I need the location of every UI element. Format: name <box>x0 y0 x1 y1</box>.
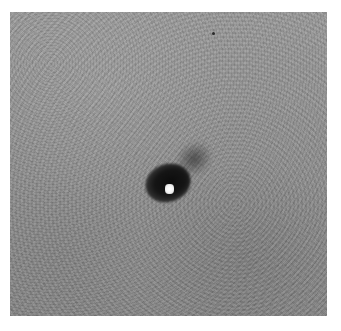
image-field <box>10 12 327 316</box>
dark-speck <box>212 32 215 35</box>
bright-core <box>165 184 174 194</box>
